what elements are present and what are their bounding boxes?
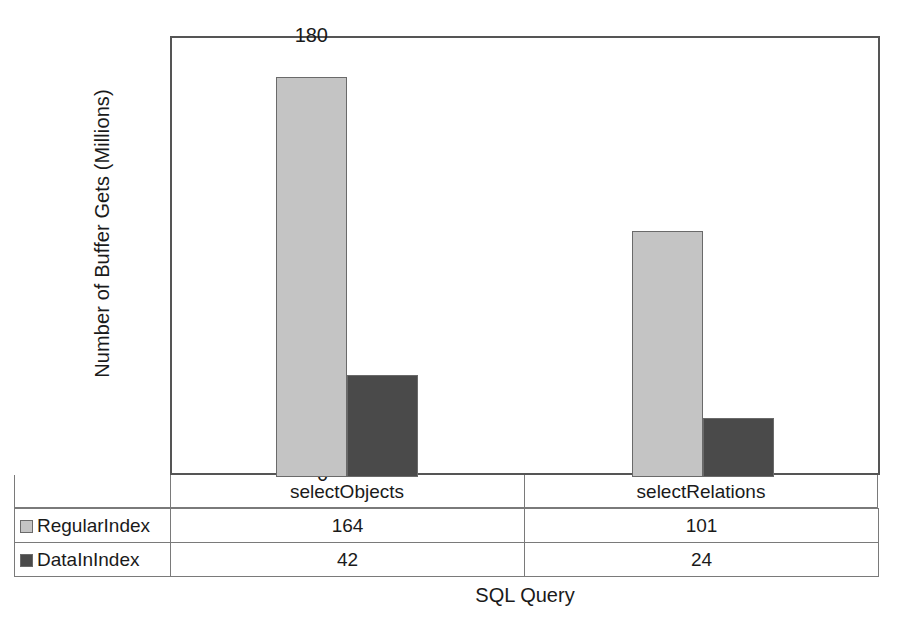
bar-DataInIndex-selectRelations: [703, 418, 774, 477]
category-label-selectObjects: selectObjects: [170, 475, 524, 508]
category-column-divider: [170, 475, 171, 508]
table-row: DataInIndex4224: [15, 543, 879, 577]
legend-label: RegularIndex: [37, 515, 150, 536]
value-cell-DataInIndex-selectObjects: 42: [171, 543, 525, 577]
chart-data-table: RegularIndex164101DataInIndex4224: [14, 508, 879, 577]
category-row-left-border: [14, 475, 15, 508]
category-header-row: selectObjectsselectRelations: [14, 475, 878, 508]
plot-area: 020406080100120140160180: [170, 36, 880, 475]
bar-RegularIndex-selectRelations: [632, 231, 703, 477]
light-gray-swatch-icon: [20, 520, 33, 533]
table-row: RegularIndex164101: [15, 509, 879, 543]
x-axis-title: SQL Query: [170, 584, 880, 607]
value-cell-DataInIndex-selectRelations: 24: [525, 543, 879, 577]
legend-cell-RegularIndex: RegularIndex: [15, 509, 171, 543]
value-cell-RegularIndex-selectRelations: 101: [525, 509, 879, 543]
y-tick-label: 180: [232, 24, 328, 47]
value-cell-RegularIndex-selectObjects: 164: [171, 509, 525, 543]
bar-DataInIndex-selectObjects: [347, 375, 418, 477]
y-axis-title: Number of Buffer Gets (Millions): [91, 14, 114, 454]
legend-label: DataInIndex: [37, 549, 139, 570]
bar-chart-figure: Number of Buffer Gets (Millions) 0204060…: [0, 0, 903, 627]
legend-cell-DataInIndex: DataInIndex: [15, 543, 171, 577]
bar-RegularIndex-selectObjects: [276, 77, 347, 477]
category-column-divider: [524, 475, 525, 508]
dark-gray-swatch-icon: [20, 554, 33, 567]
y-tick-mark: [334, 37, 343, 39]
category-label-selectRelations: selectRelations: [524, 475, 878, 508]
